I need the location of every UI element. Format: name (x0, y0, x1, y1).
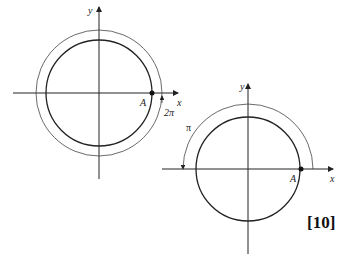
point-a (150, 91, 155, 96)
x-label: x (176, 97, 182, 108)
y-label: y (87, 5, 93, 16)
point-a (299, 167, 304, 172)
point-a-label: A (139, 97, 147, 108)
marks-label: [10] (307, 213, 335, 233)
figure-left: y x A 2π (13, 5, 182, 179)
point-a-label: A (289, 173, 297, 184)
y-label: y (239, 81, 245, 92)
x-label: x (329, 173, 335, 184)
angle-label: π (186, 122, 191, 133)
angle-label: 2π (164, 107, 175, 118)
circle-diagrams: y x A 2π y x A π (0, 0, 345, 266)
